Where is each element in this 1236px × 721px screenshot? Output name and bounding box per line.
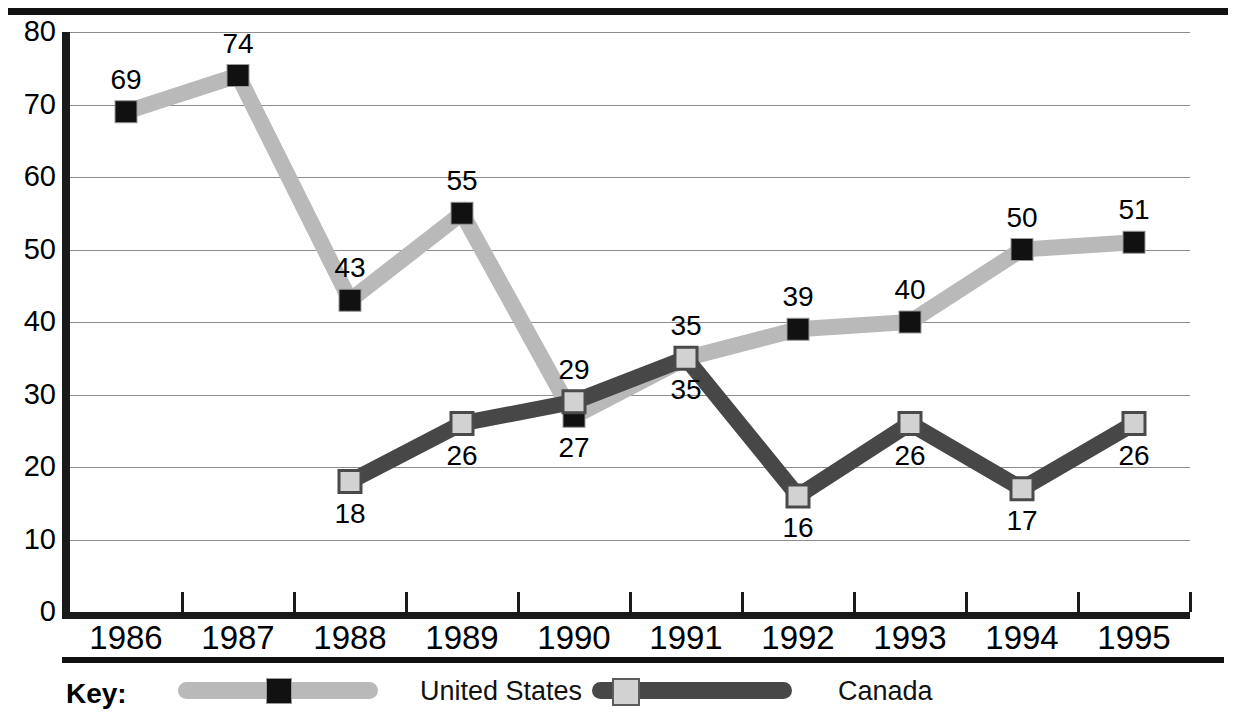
x-axis-tick [741, 592, 744, 612]
x-axis-tick [853, 592, 856, 612]
x-axis-tick-label: 1995 [1078, 620, 1190, 656]
data-point-marker [899, 413, 921, 435]
data-point-marker [115, 101, 137, 123]
x-axis-tick [517, 592, 520, 612]
x-axis-tick [405, 592, 408, 612]
data-point-marker [1011, 239, 1033, 261]
legend-label: Canada [838, 676, 933, 706]
data-point-marker [339, 289, 361, 311]
chart-legend: Key: United StatesCanada [0, 672, 1236, 718]
data-point-label-united-states: 69 [86, 66, 166, 94]
legend-entry[interactable]: Canada [0, 672, 1236, 716]
data-point-label-united-states: 27 [534, 434, 614, 462]
data-point-label-united-states: 43 [310, 254, 390, 282]
data-point-label-united-states: 50 [982, 204, 1062, 232]
x-axis-tick-label: 1992 [742, 620, 854, 656]
data-point-label-canada: 17 [982, 507, 1062, 535]
data-point-marker [787, 485, 809, 507]
x-axis-tick-label: 1988 [294, 620, 406, 656]
x-axis-tick [1189, 592, 1192, 612]
x-axis-tick-label: 1987 [182, 620, 294, 656]
x-axis-tick-label: 1993 [854, 620, 966, 656]
data-point-label-canada: 18 [310, 500, 390, 528]
data-point-marker [1011, 478, 1033, 500]
data-point-label-united-states: 55 [422, 167, 502, 195]
data-point-marker [227, 65, 249, 87]
data-point-label-united-states: 40 [870, 276, 950, 304]
series-line [126, 76, 1134, 417]
key-divider-rule [62, 657, 1224, 663]
data-point-label-canada: 26 [1094, 442, 1174, 470]
data-point-marker [339, 471, 361, 493]
data-point-marker [451, 413, 473, 435]
data-point-label-united-states: 39 [758, 283, 838, 311]
x-axis-tick-label: 1991 [630, 620, 742, 656]
data-point-marker [787, 318, 809, 340]
x-axis-tick [181, 592, 184, 612]
x-axis-tick [1077, 592, 1080, 612]
x-axis-tick-label: 1989 [406, 620, 518, 656]
data-point-marker [1123, 231, 1145, 253]
x-axis-tick [965, 592, 968, 612]
x-axis-tick [629, 592, 632, 612]
series-layer [0, 0, 1236, 721]
x-axis-tick-label: 1986 [70, 620, 182, 656]
data-point-label-canada: 26 [870, 442, 950, 470]
data-point-label-canada: 29 [534, 356, 614, 384]
data-point-label-canada: 35 [646, 376, 726, 404]
x-axis-tick-label: 1994 [966, 620, 1078, 656]
data-point-label-canada: 26 [422, 442, 502, 470]
data-point-marker [1123, 413, 1145, 435]
data-point-label-united-states: 51 [1094, 196, 1174, 224]
data-point-marker [563, 391, 585, 413]
data-point-marker [451, 202, 473, 224]
data-point-marker [899, 311, 921, 333]
data-point-label-united-states: 74 [198, 30, 278, 58]
x-axis-tick [293, 592, 296, 612]
data-point-label-united-states: 35 [646, 312, 726, 340]
legend-swatch-marker [612, 678, 640, 706]
x-axis-tick-label: 1990 [518, 620, 630, 656]
data-point-marker [675, 347, 697, 369]
data-point-label-canada: 16 [758, 514, 838, 542]
line-chart: 01020304050607080 Key: United StatesCana… [0, 0, 1236, 721]
